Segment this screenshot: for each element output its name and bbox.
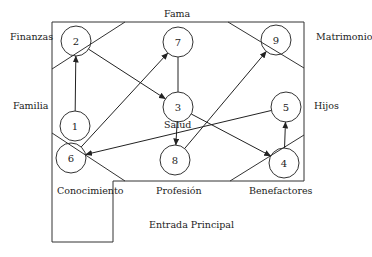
node-3: 3 bbox=[163, 92, 193, 122]
area-label-profesión: Profesión bbox=[156, 185, 202, 196]
edge-8-9 bbox=[185, 51, 267, 148]
area-label-benefactores: Benefactores bbox=[249, 185, 312, 196]
area-label-fama: Fama bbox=[164, 8, 190, 19]
edge-6-7 bbox=[81, 53, 168, 147]
node-label: 1 bbox=[72, 121, 78, 132]
node-label: 8 bbox=[172, 155, 178, 166]
node-5: 5 bbox=[271, 92, 301, 122]
area-label-conocimiento: Conocimiento bbox=[57, 185, 124, 196]
edge-2-3 bbox=[89, 49, 166, 99]
area-label-hijos: Hijos bbox=[314, 100, 339, 111]
area-label-matrimonio: Matrimonio bbox=[316, 31, 372, 42]
edge-5-6 bbox=[86, 110, 272, 154]
node-6: 6 bbox=[56, 143, 86, 173]
node-label: 2 bbox=[73, 36, 79, 47]
edge-1-2 bbox=[75, 56, 76, 111]
nodes: 123456789 bbox=[56, 25, 301, 178]
node-label: 4 bbox=[281, 158, 287, 169]
node-label: 9 bbox=[273, 35, 279, 46]
node-4: 4 bbox=[269, 148, 299, 178]
node-2: 2 bbox=[61, 26, 91, 56]
node-label: 7 bbox=[175, 37, 181, 48]
node-1: 1 bbox=[60, 111, 90, 141]
node-label: 5 bbox=[283, 102, 289, 113]
area-label-finanzas: Finanzas bbox=[10, 31, 53, 42]
area-label-entrada-principal: Entrada Principal bbox=[149, 219, 234, 230]
node-label: 3 bbox=[175, 102, 181, 113]
edge-4-5 bbox=[285, 122, 286, 148]
area-label-familia: Familia bbox=[13, 100, 48, 111]
area-label-salud: Salud bbox=[164, 119, 191, 130]
floor-plan-outline bbox=[52, 22, 304, 242]
node-7: 7 bbox=[163, 27, 193, 57]
node-label: 6 bbox=[68, 153, 74, 164]
node-8: 8 bbox=[160, 145, 190, 175]
